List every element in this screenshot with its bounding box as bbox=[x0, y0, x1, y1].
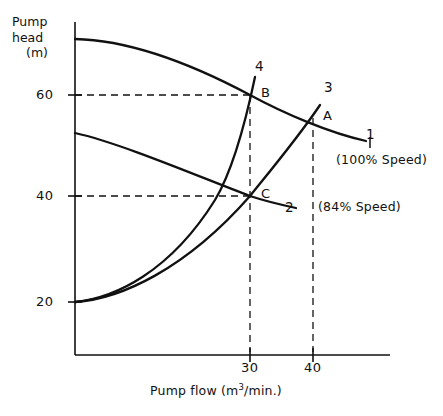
curve-1-speed-note: (100% Speed) bbox=[336, 152, 427, 168]
y-tick-label-60: 60 bbox=[36, 87, 54, 103]
point-a-label: A bbox=[323, 108, 332, 124]
curve-2-label: 2 bbox=[285, 199, 294, 216]
point-c-label: C bbox=[261, 186, 270, 202]
curve-4-label: 4 bbox=[255, 58, 264, 75]
x-axis-title-suffix: /min.) bbox=[244, 383, 282, 398]
curve-3-label: 3 bbox=[324, 79, 333, 96]
x-tick-label-40: 40 bbox=[304, 360, 322, 376]
curve-1-label: 1 bbox=[366, 126, 375, 143]
y-tick-label-20: 20 bbox=[36, 294, 54, 310]
guide-lines bbox=[75, 95, 313, 352]
y-axis-title: Pump head (m) bbox=[12, 14, 48, 61]
x-axis-title-prefix: Pump flow (m bbox=[150, 383, 239, 398]
x-axis-title: Pump flow (m3/min.) bbox=[150, 382, 282, 399]
y-tick-label-40: 40 bbox=[36, 188, 54, 204]
x-tick-label-30: 30 bbox=[241, 360, 259, 376]
y-axis-title-line3: (m) bbox=[12, 45, 48, 61]
y-axis-title-line1: Pump bbox=[12, 14, 48, 30]
curve-1-pump-100 bbox=[75, 39, 366, 141]
pump-performance-figure: Pump head (m) 60 40 20 30 40 Pump flow (… bbox=[0, 0, 443, 416]
point-b-label: B bbox=[261, 85, 270, 101]
y-axis-title-line2: head bbox=[12, 30, 48, 46]
curve-3-system bbox=[75, 105, 320, 302]
curve-2-speed-note: (84% Speed) bbox=[318, 199, 401, 215]
curve-4-system bbox=[75, 77, 255, 302]
